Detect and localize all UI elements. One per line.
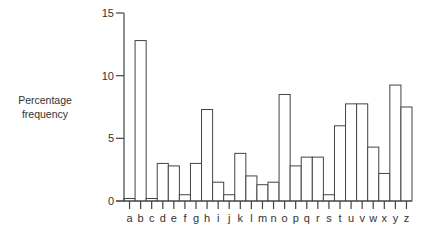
- x-tick-label-d: d: [160, 212, 166, 224]
- bar-e: [168, 166, 179, 201]
- bar-t: [334, 126, 345, 201]
- bars-group: [124, 41, 412, 201]
- x-tick-label-n: n: [270, 212, 276, 224]
- x-tick-label-r: r: [316, 212, 320, 224]
- bar-chart: 051015 abcdefghijklmnopqrstuvwxyz: [0, 0, 423, 237]
- bar-y: [390, 85, 401, 201]
- bar-l: [246, 176, 257, 201]
- x-tick-label-l: l: [250, 212, 252, 224]
- x-tick-label-k: k: [238, 212, 244, 224]
- bar-m: [257, 185, 268, 201]
- bar-j: [224, 195, 235, 201]
- x-axis: abcdefghijklmnopqrstuvwxyz: [116, 201, 412, 224]
- x-tick-label-b: b: [138, 212, 144, 224]
- x-tick-label-j: j: [227, 212, 230, 224]
- x-tick-label-u: u: [348, 212, 354, 224]
- x-tick-label-c: c: [149, 212, 155, 224]
- x-tick-label-i: i: [217, 212, 219, 224]
- bar-x: [379, 173, 390, 201]
- x-tick-label-g: g: [193, 212, 199, 224]
- x-tick-label-p: p: [293, 212, 299, 224]
- x-tick-label-t: t: [338, 212, 341, 224]
- bar-d: [157, 163, 168, 201]
- bar-h: [202, 110, 213, 201]
- bar-g: [190, 163, 201, 201]
- bar-i: [213, 182, 224, 201]
- x-tick-label-v: v: [359, 212, 365, 224]
- y-tick-label-5: 5: [108, 132, 114, 144]
- y-tick-label-15: 15: [102, 7, 114, 19]
- bar-r: [312, 157, 323, 201]
- x-tick-label-q: q: [304, 212, 310, 224]
- x-tick-label-s: s: [326, 212, 332, 224]
- x-tick-label-a: a: [126, 212, 133, 224]
- x-tick-label-o: o: [282, 212, 288, 224]
- bar-p: [290, 166, 301, 201]
- y-tick-label-10: 10: [102, 70, 114, 82]
- y-axis: 051015: [102, 7, 124, 207]
- x-tick-label-h: h: [204, 212, 210, 224]
- x-tick-label-x: x: [382, 212, 388, 224]
- bar-z: [401, 107, 412, 201]
- x-tick-label-m: m: [258, 212, 267, 224]
- bar-q: [301, 157, 312, 201]
- x-tick-label-f: f: [183, 212, 187, 224]
- x-tick-label-z: z: [404, 212, 410, 224]
- x-tick-label-y: y: [393, 212, 399, 224]
- x-tick-label-w: w: [368, 212, 377, 224]
- bar-v: [357, 104, 368, 201]
- bar-b: [135, 41, 146, 201]
- bar-k: [235, 153, 246, 201]
- bar-w: [368, 147, 379, 201]
- x-tick-label-e: e: [171, 212, 177, 224]
- bar-o: [279, 94, 290, 201]
- y-tick-label-0: 0: [108, 195, 114, 207]
- bar-n: [268, 182, 279, 201]
- bar-u: [346, 104, 357, 201]
- bar-f: [179, 195, 190, 201]
- bar-s: [323, 195, 334, 201]
